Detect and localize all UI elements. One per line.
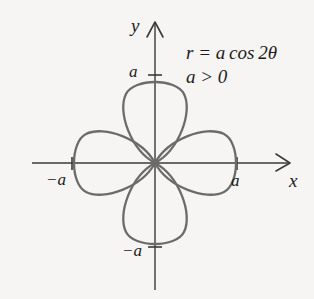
equation-polar-text: r = a cos 2θ [186,41,277,65]
x-axis [32,154,290,171]
tick-label-a-bottom: −a [122,242,142,259]
polar-rose-figure: y x a −a −a a r = a cos 2θ a > 0 [0,0,314,299]
tick-label-a-right: a [231,172,240,189]
tick-label-a-top: a [129,63,138,80]
tick-label-a-left: −a [46,171,66,188]
equation-annotation: r = a cos 2θ a > 0 [186,41,277,90]
equation-constraint-text: a > 0 [186,65,277,89]
axis-label-x: x [289,171,297,190]
axis-label-y: y [131,16,139,35]
